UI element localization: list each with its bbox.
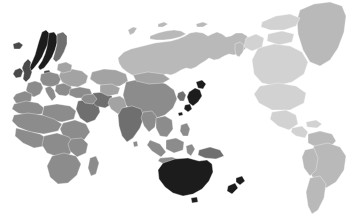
- country-sri-lanka: [133, 141, 138, 147]
- world-map: [0, 0, 346, 220]
- country-tasmania: [191, 197, 198, 203]
- figure-container: 55: [0, 0, 346, 220]
